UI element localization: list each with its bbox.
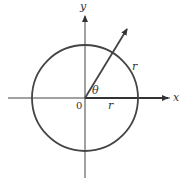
x-axis-label: x: [173, 91, 180, 104]
unit-circle-diagram: y x 0 θ r r: [0, 0, 182, 189]
radius-label-arc: r: [132, 60, 138, 73]
radius-label-axis: r: [108, 99, 114, 112]
angle-label: θ: [92, 84, 99, 97]
y-axis-label: y: [79, 0, 87, 13]
origin-label: 0: [76, 100, 82, 111]
